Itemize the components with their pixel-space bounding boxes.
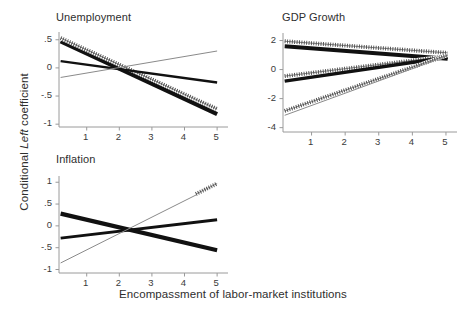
- y-tick-label: -.5: [28, 240, 52, 251]
- x-tick-label: 3: [375, 136, 380, 147]
- y-tick-label: -2: [252, 91, 276, 102]
- x-tick-label: 2: [116, 131, 121, 142]
- x-tick-label: 5: [213, 131, 218, 142]
- y-tick-label: 0: [28, 218, 52, 229]
- chart-canvas-unemployment: [58, 31, 233, 129]
- x-tick-label: 2: [342, 136, 347, 147]
- y-tick-label: .5: [28, 197, 52, 208]
- chart-canvas-gdp: [282, 32, 462, 134]
- x-tick-label: 1: [308, 136, 313, 147]
- series-declining-thick: [61, 214, 217, 251]
- chart-canvas-inflation: [58, 175, 233, 275]
- y-tick-label: -1: [28, 262, 52, 273]
- series-rising-stippled-segment-edge: [196, 184, 217, 194]
- panel-title-gdp: GDP Growth: [282, 11, 345, 23]
- x-tick-label: 4: [181, 131, 186, 142]
- y-tick-label: 0: [28, 60, 52, 71]
- y-tick-label: 2: [252, 33, 276, 44]
- series-rising-medium: [61, 220, 217, 238]
- panel-title-inflation: Inflation: [56, 153, 95, 165]
- plot-unemployment: [58, 31, 221, 125]
- y-tick-label: 0: [252, 62, 276, 73]
- y-tick-label: 1: [28, 175, 52, 186]
- x-tick-label: 3: [148, 277, 153, 288]
- plot-gdp: [282, 32, 450, 130]
- x-tick-label: 3: [148, 131, 153, 142]
- x-tick-label: 5: [213, 277, 218, 288]
- panel-unemployment: Unemployment .50-.5-112345: [0, 0, 240, 150]
- y-tick-label: -4: [252, 120, 276, 131]
- y-tick-label: .5: [28, 32, 52, 43]
- x-tick-label: 5: [442, 136, 447, 147]
- y-tick-label: -.5: [28, 89, 52, 100]
- x-tick-label: 4: [181, 277, 186, 288]
- figure-root: Conditional Left coefficient Encompassme…: [0, 0, 466, 313]
- panel-title-unemployment: Unemployment: [56, 11, 131, 23]
- series-lower-stippled-edge: [285, 55, 448, 111]
- y-tick-label: -1: [28, 117, 52, 128]
- panel-gdp: GDP Growth 20-2-412345: [232, 0, 466, 150]
- panel-inflation: Inflation 1.50-.5-112345: [0, 150, 240, 290]
- x-tick-label: 1: [83, 131, 88, 142]
- x-tick-label: 4: [409, 136, 414, 147]
- series-middle-thick: [285, 57, 448, 81]
- x-tick-label: 1: [83, 277, 88, 288]
- series-estimate-thick: [61, 41, 217, 114]
- plot-inflation: [58, 175, 221, 271]
- x-tick-label: 2: [116, 277, 121, 288]
